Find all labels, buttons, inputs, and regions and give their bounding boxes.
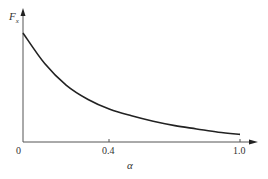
chart-canvas	[0, 0, 268, 179]
x-axis-arrow-icon	[249, 140, 258, 145]
y-axis-arrow-icon	[21, 8, 26, 16]
x-axis-label: α	[127, 160, 133, 171]
x-tick-label-1.0: 1.0	[233, 146, 246, 156]
x-tick-label-0.4: 0.4	[102, 146, 115, 156]
y-axis-label-main: F	[9, 10, 16, 22]
y-axis-label: Fx	[9, 11, 19, 25]
fx-curve	[23, 33, 240, 134]
y-axis-label-sub: x	[16, 17, 19, 25]
x-tick-label-0: 0	[16, 146, 21, 156]
